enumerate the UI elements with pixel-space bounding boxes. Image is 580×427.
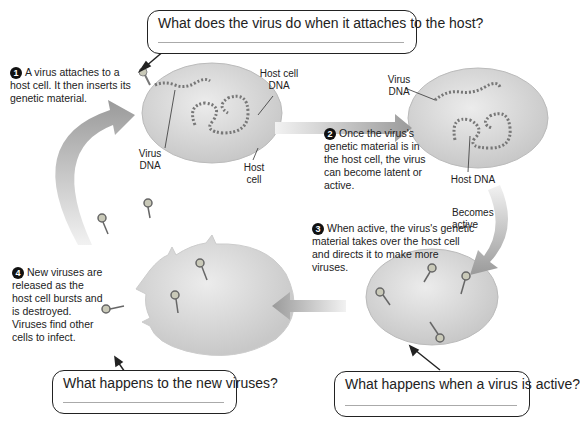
label-becomes-active: Becomes active [452, 207, 496, 231]
callout-new-viruses-question: What happens to the new viruses? [52, 370, 237, 414]
callout-active-question: What happens when a virus is active? [334, 371, 530, 417]
answer-line[interactable] [345, 405, 517, 406]
callout-question-text: What happens when a virus is active? [345, 376, 580, 392]
callout-question-text: What happens to the new viruses? [63, 375, 278, 391]
step-text: When active, the virus's genetic materia… [312, 222, 474, 273]
arrow-cell4-to-cell1 [55, 100, 135, 245]
label-host-cell: Host cell [240, 162, 268, 186]
callout-question-text: What does the virus do when it attaches … [158, 15, 483, 31]
step-number-badge: 2 [324, 128, 336, 140]
step-text: A virus attaches to a host cell. It then… [10, 66, 131, 104]
step-text: New viruses are released as the host cel… [12, 266, 102, 343]
step-4: 4New viruses are released as the host ce… [12, 266, 104, 344]
label-virus-dna-2: Virus DNA [384, 74, 414, 98]
callout-attach-question: What does the virus do when it attaches … [147, 10, 417, 54]
step-text: Once the virus's genetic material is in … [324, 127, 426, 191]
step-1: 1A virus attaches to a host cell. It the… [10, 66, 135, 105]
host-cell-bursting [98, 199, 294, 355]
step-2: 2Once the virus's genetic material is in… [324, 127, 432, 192]
step-number-badge: 3 [312, 223, 324, 235]
label-host-dna: Host DNA [448, 174, 498, 186]
label-virus-dna-1: Virus DNA [135, 148, 165, 172]
step-number-badge: 4 [12, 267, 24, 279]
label-host-cell-dna: Host cell DNA [258, 68, 300, 92]
answer-line[interactable] [63, 402, 224, 403]
step-number-badge: 1 [10, 67, 22, 79]
answer-line[interactable] [158, 42, 404, 43]
